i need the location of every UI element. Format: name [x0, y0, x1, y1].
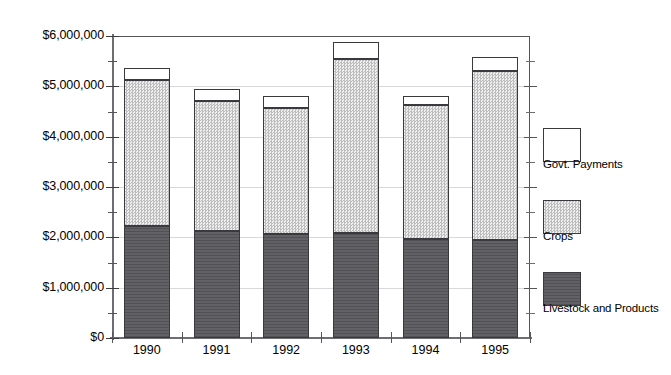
- bar-segment-crops[interactable]: [263, 108, 309, 234]
- x-axis-tick-label: 1994: [391, 343, 461, 357]
- y-axis-tick-label: $1,000,000: [4, 280, 104, 294]
- bar-group[interactable]: [194, 36, 240, 338]
- legend-swatch-icon: [543, 272, 581, 306]
- bar-segment-govt-payments[interactable]: [333, 42, 379, 59]
- gridline: [113, 237, 529, 238]
- y-axis-minor-tick-right: [526, 162, 535, 163]
- y-axis-minor-tick-right: [526, 112, 535, 113]
- gridline: [113, 187, 529, 188]
- gridline: [113, 86, 529, 87]
- y-axis-major-tick: [106, 36, 119, 37]
- x-axis-tick: [530, 332, 531, 343]
- bar-group[interactable]: [403, 36, 449, 338]
- y-axis-minor-tick-right: [526, 263, 535, 264]
- y-axis-tick-label: $5,000,000: [4, 78, 104, 92]
- x-axis-tick-label: 1990: [112, 343, 182, 357]
- y-axis-major-tick-right: [524, 86, 537, 87]
- bar-segment-livestock[interactable]: [124, 226, 170, 338]
- legend-swatch-icon: [543, 200, 581, 234]
- x-axis-tick: [321, 332, 322, 343]
- bar-group[interactable]: [124, 36, 170, 338]
- x-axis-tick-label: 1993: [321, 343, 391, 357]
- bar-segment-crops[interactable]: [472, 71, 518, 240]
- y-axis-minor-tick-right: [526, 61, 535, 62]
- y-axis-major-tick: [106, 86, 119, 87]
- bar-segment-govt-payments[interactable]: [403, 96, 449, 105]
- y-axis-tick-label: $3,000,000: [4, 179, 104, 193]
- y-axis-tick-label: $6,000,000: [4, 28, 104, 42]
- y-axis-minor-tick: [108, 313, 117, 314]
- y-axis-minor-tick-right: [526, 313, 535, 314]
- bar-segment-crops[interactable]: [194, 101, 240, 231]
- y-axis-major-tick-right: [524, 137, 537, 138]
- y-axis-minor-tick: [108, 61, 117, 62]
- x-axis-tick: [251, 332, 252, 343]
- bar-segment-crops[interactable]: [333, 59, 379, 233]
- bar-segment-govt-payments[interactable]: [472, 57, 518, 71]
- bar-segment-govt-payments[interactable]: [194, 89, 240, 101]
- y-axis-major-tick-right: [524, 187, 537, 188]
- legend-label: Livestock and Products: [543, 302, 659, 314]
- bar-segment-livestock[interactable]: [263, 234, 309, 338]
- y-axis-major-tick-right: [524, 288, 537, 289]
- gridline: [113, 288, 529, 289]
- y-axis-tick-label: $4,000,000: [4, 129, 104, 143]
- x-axis-tick-label: 1991: [182, 343, 252, 357]
- bar-segment-crops[interactable]: [124, 80, 170, 226]
- y-axis-major-tick: [106, 137, 119, 138]
- y-axis-minor-tick: [108, 263, 117, 264]
- legend-label: Govt. Payments: [543, 158, 623, 170]
- y-axis-tick-label: $0: [4, 330, 104, 344]
- bar-segment-livestock[interactable]: [403, 239, 449, 338]
- y-axis-major-tick-right: [524, 237, 537, 238]
- gridline: [113, 137, 529, 138]
- y-axis-major-tick: [106, 187, 119, 188]
- y-axis-minor-tick: [108, 162, 117, 163]
- y-axis-tick-label: $2,000,000: [4, 229, 104, 243]
- y-axis-minor-tick: [108, 112, 117, 113]
- bar-group[interactable]: [263, 36, 309, 338]
- legend-swatch-icon: [543, 128, 581, 162]
- x-axis-tick: [460, 332, 461, 343]
- x-axis-tick-label: 1995: [460, 343, 530, 357]
- x-axis-tick: [182, 332, 183, 343]
- bar-segment-govt-payments[interactable]: [263, 96, 309, 108]
- bar-segment-livestock[interactable]: [194, 231, 240, 338]
- bar-group[interactable]: [472, 36, 518, 338]
- x-axis-tick-label: 1992: [251, 343, 321, 357]
- legend-label: Crops: [543, 230, 573, 242]
- stacked-bar-chart: $0$1,000,000$2,000,000$3,000,000$4,000,0…: [0, 0, 671, 375]
- y-axis-major-tick: [106, 237, 119, 238]
- bar-segment-govt-payments[interactable]: [124, 68, 170, 80]
- y-axis-minor-tick: [108, 212, 117, 213]
- bar-group[interactable]: [333, 36, 379, 338]
- y-axis-major-tick: [106, 288, 119, 289]
- x-axis-tick: [391, 332, 392, 343]
- y-axis-minor-tick-right: [526, 212, 535, 213]
- bar-segment-crops[interactable]: [403, 105, 449, 239]
- bar-segment-livestock[interactable]: [472, 240, 518, 338]
- x-axis-tick: [112, 332, 113, 343]
- bar-segment-livestock[interactable]: [333, 233, 379, 338]
